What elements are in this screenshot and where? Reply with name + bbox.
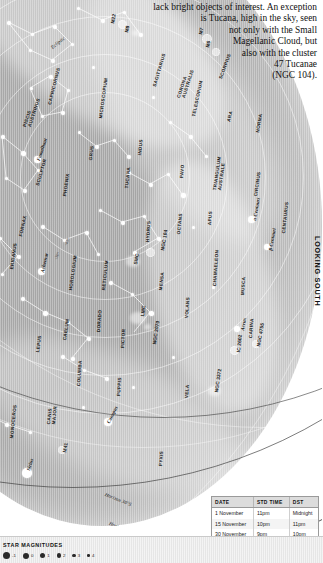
magnitude-item: -1: [3, 552, 16, 559]
constellation-label: VELA: [184, 384, 190, 398]
intro-line: not only with the Small: [112, 25, 317, 36]
magnitude-label: 3: [78, 553, 80, 558]
star: [127, 155, 131, 159]
magnitude-label: 4: [92, 553, 94, 558]
star: [7, 21, 11, 25]
table-header-dst: DST: [289, 497, 318, 508]
star: [109, 281, 113, 285]
intro-paragraph: lack bright objects of interest. An exce…: [112, 2, 317, 82]
magnitude-item: 1: [40, 553, 49, 558]
star: [113, 139, 116, 142]
star-magnitudes-legend: STAR MAGNITUDES -101234: [0, 536, 323, 563]
magnitude-dot-icon: [40, 553, 45, 558]
star: [41, 115, 44, 118]
star: [77, 7, 80, 10]
star: [157, 237, 161, 241]
table-header-std-time: STD TIME: [253, 497, 289, 508]
constellation-label: PAVO: [179, 164, 185, 178]
star: [17, 255, 21, 259]
star: [192, 226, 195, 229]
magnitude-item: 4: [87, 553, 94, 558]
table-cell-dst: Midnight: [289, 508, 318, 519]
magnitude-dot-icon: [57, 553, 61, 557]
star: [61, 355, 65, 359]
star: [71, 43, 74, 46]
star: [31, 33, 34, 36]
star: [212, 286, 215, 289]
star: [43, 311, 48, 316]
table-row: 1 November 11pm Midnight: [212, 508, 318, 519]
star: [205, 155, 208, 158]
intro-line: 47 Tucanae: [112, 59, 317, 70]
star: [149, 311, 154, 316]
star: [5, 177, 8, 180]
star: [95, 145, 99, 149]
intro-line: Magellanic Cloud, but: [112, 36, 317, 47]
star: [143, 215, 146, 218]
star: [41, 225, 45, 229]
star-magnitudes-items: -101234: [3, 552, 94, 559]
dso-glyph-ngc104: [146, 248, 155, 257]
star: [82, 406, 85, 409]
star: [167, 173, 170, 176]
table-row: 15 November 10pm 11pm: [212, 519, 318, 529]
star: [1, 273, 4, 276]
magnitude-dot-icon: [23, 553, 29, 559]
table-cell-std-time: 11pm: [253, 508, 289, 519]
magnitude-label: 1: [47, 553, 49, 558]
dso-glyph-ngc2070: [144, 324, 151, 330]
table-cell-date: 1 November: [212, 508, 253, 519]
star: [132, 386, 135, 389]
star: [21, 151, 26, 156]
star: [97, 253, 100, 256]
star: [131, 293, 134, 296]
star: [152, 96, 155, 99]
star: [61, 111, 65, 115]
table-header-row: DATE STD TIME DST: [212, 497, 318, 508]
magnitude-item: 2: [57, 553, 66, 558]
magnitude-dot-icon: [3, 552, 10, 559]
magnitude-label: 0: [31, 553, 33, 558]
star: [67, 89, 70, 92]
star: [101, 19, 105, 23]
star: [1, 135, 5, 139]
magnitude-dot-icon: [72, 554, 75, 557]
intro-line: is Tucana, high in the sky, seen: [112, 13, 317, 24]
intro-line: also with the cluster: [112, 48, 317, 59]
constellation-label: PYXIS: [158, 451, 164, 467]
star: [105, 377, 109, 381]
date-time-table-grid: DATE STD TIME DST 1 November 11pm Midnig…: [212, 497, 318, 539]
magnitude-label: 2: [63, 553, 65, 558]
star: [53, 25, 57, 29]
star: [149, 183, 153, 187]
looking-south-caption: LOOKING SOUTH: [313, 236, 322, 306]
star: [121, 221, 125, 225]
table-cell-dst: 11pm: [289, 519, 318, 529]
star: [5, 423, 9, 427]
star: [181, 193, 186, 198]
star: [21, 297, 25, 301]
star: [87, 337, 91, 341]
intro-line: (NGC 104).: [112, 70, 317, 81]
magnitude-item: 0: [23, 553, 33, 559]
constellation-label: APUS: [207, 211, 213, 225]
star: [99, 209, 102, 212]
table-header-date: DATE: [212, 497, 253, 508]
star: [51, 59, 55, 63]
star: [169, 121, 172, 124]
star: [30, 87, 33, 90]
star: [29, 431, 32, 434]
star: [78, 131, 81, 134]
star-magnitudes-title: STAR MAGNITUDES: [3, 542, 63, 548]
magnitude-dot-icon: [87, 554, 90, 557]
table-cell-std-time: 10pm: [253, 519, 289, 529]
star: [83, 369, 86, 372]
magnitude-item: 3: [72, 553, 80, 558]
star: [23, 189, 27, 193]
star: [92, 66, 95, 69]
date-time-table: DATE STD TIME DST 1 November 11pm Midnig…: [211, 496, 319, 540]
table-cell-date: 15 November: [212, 519, 253, 529]
star: [172, 356, 175, 359]
star: [85, 231, 89, 235]
star: [189, 135, 193, 139]
